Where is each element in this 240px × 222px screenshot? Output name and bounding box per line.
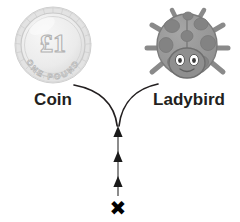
cross-marker-icon: ✖ [110, 196, 127, 220]
one-pound-coin-icon: £1 ONE POUND [15, 7, 92, 83]
branching-arrow-diagram: £1 ONE POUND [0, 0, 240, 222]
ladybird-icon [147, 10, 228, 78]
branch-to-coin [74, 85, 117, 126]
ladybird-pupil-right [192, 58, 196, 63]
stem-arrowhead-bottom [113, 176, 122, 187]
y-branch-connector [74, 84, 158, 126]
label-coin: Coin [34, 90, 72, 109]
diagram-canvas: £1 ONE POUND [0, 0, 240, 222]
stem-arrowhead-top [113, 126, 122, 137]
coin-denomination-text: £1 [40, 29, 66, 58]
ladybird-pupil-left [178, 58, 182, 63]
ladybird-head [169, 48, 205, 78]
label-ladybird: Ladybird [153, 90, 225, 109]
upward-progress-arrow [113, 126, 122, 196]
stem-arrowhead-middle [113, 151, 122, 162]
